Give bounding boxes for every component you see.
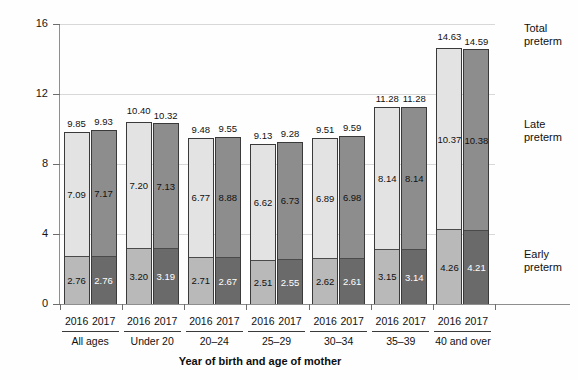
- y-tick-label-12: 12: [22, 87, 48, 99]
- bar: 8.143.15: [374, 107, 400, 304]
- y-axis-title: Percent: [0, 124, 1, 169]
- x-tick-label-year: 2017: [397, 315, 431, 327]
- bar-value-early-preterm: 3.15: [375, 272, 399, 282]
- group-underline: [124, 331, 181, 332]
- bar-segment-late-preterm: 8.14: [375, 108, 399, 250]
- bar: 8.882.67: [215, 137, 241, 304]
- bar-segment-late-preterm: 7.09: [65, 133, 89, 257]
- bar: 6.892.62: [312, 138, 338, 304]
- legend-early-preterm: Early preterm: [524, 248, 578, 274]
- bar-segment-early-preterm: 2.55: [278, 259, 302, 304]
- bar-segment-late-preterm: 8.88: [216, 138, 240, 258]
- bar-value-late-preterm: 7.17: [92, 189, 116, 199]
- y-tick-label-8: 8: [22, 157, 48, 169]
- x-axis-tick: [309, 304, 310, 310]
- bar-value-total-preterm: 9.59: [332, 123, 372, 133]
- bar-value-total-preterm: 9.93: [84, 117, 124, 127]
- bar-segment-early-preterm: 2.51: [251, 260, 275, 304]
- bar-segment-late-preterm: 6.98: [340, 137, 364, 259]
- bar-segment-early-preterm: 2.76: [92, 256, 116, 304]
- group-underline: [186, 331, 243, 332]
- bar: 7.133.19: [153, 123, 179, 304]
- x-tick-label-year: 2017: [87, 315, 121, 327]
- bar-value-late-preterm: 8.14: [375, 174, 399, 184]
- group-underline: [310, 331, 367, 332]
- bar-value-early-preterm: 2.71: [189, 276, 213, 286]
- legend-early-preterm-line2: preterm: [524, 261, 578, 274]
- bar-segment-late-preterm: 7.13: [154, 124, 178, 249]
- x-axis-tick: [371, 304, 372, 310]
- bar-segment-late-preterm: 10.37: [437, 49, 461, 230]
- bar-value-early-preterm: 3.19: [154, 272, 178, 282]
- bar-value-late-preterm: 6.62: [251, 198, 275, 208]
- y-tick-label-16: 16: [22, 17, 48, 29]
- bar-segment-early-preterm: 3.19: [154, 248, 178, 304]
- bar-value-late-preterm: 8.88: [216, 193, 240, 203]
- bar-segment-early-preterm: 2.71: [189, 257, 213, 304]
- x-axis-tick: [122, 304, 123, 310]
- legend-total-preterm-line2: preterm: [524, 35, 578, 48]
- legend-total-preterm-line1: Total: [524, 22, 578, 35]
- bar-segment-late-preterm: 6.77: [189, 139, 213, 257]
- bar: 10.384.21: [463, 49, 489, 304]
- bar: 7.203.20: [126, 122, 152, 304]
- bar-segment-early-preterm: 2.67: [216, 257, 240, 304]
- bar: 6.982.61: [339, 136, 365, 304]
- y-tick-4: [53, 234, 60, 235]
- group-underline: [434, 331, 491, 332]
- bar-segment-early-preterm: 3.14: [402, 249, 426, 304]
- group-underline: [62, 331, 119, 332]
- bar-value-early-preterm: 2.76: [65, 276, 89, 286]
- bar-segment-early-preterm: 4.21: [464, 230, 488, 304]
- x-axis-tick: [60, 304, 61, 310]
- y-tick-12: [53, 94, 60, 95]
- bar-segment-late-preterm: 7.20: [127, 123, 151, 249]
- group-underline: [248, 331, 305, 332]
- bar: 7.172.76: [91, 130, 117, 304]
- bar-segment-late-preterm: 8.14: [402, 108, 426, 250]
- x-tick-label-year: 2017: [273, 315, 307, 327]
- bar-value-late-preterm: 6.73: [278, 196, 302, 206]
- bar-value-late-preterm: 6.98: [340, 193, 364, 203]
- group-underline: [372, 331, 429, 332]
- bar: 8.143.14: [401, 107, 427, 304]
- legend-late-preterm: Late preterm: [524, 118, 578, 144]
- bar-segment-late-preterm: 7.17: [92, 131, 116, 256]
- x-axis-tick: [184, 304, 185, 310]
- bar-value-total-preterm: 11.28: [394, 94, 434, 104]
- bar-value-total-preterm: 9.28: [270, 129, 310, 139]
- bar: 10.374.26: [436, 48, 462, 304]
- y-tick-label-4: 4: [22, 227, 48, 239]
- legend-early-preterm-line1: Early: [524, 248, 578, 261]
- legend-late-preterm-line1: Late: [524, 118, 578, 131]
- bar-value-early-preterm: 2.67: [216, 277, 240, 287]
- bar-value-late-preterm: 10.38: [464, 136, 488, 146]
- bar-value-late-preterm: 7.13: [154, 182, 178, 192]
- bar-value-late-preterm: 6.89: [313, 194, 337, 204]
- legend-total-preterm: Total preterm: [524, 22, 578, 48]
- bar-segment-early-preterm: 4.26: [437, 229, 461, 304]
- bar-value-early-preterm: 2.76: [92, 276, 116, 286]
- bar: 6.772.71: [188, 138, 214, 304]
- bar-segment-early-preterm: 2.62: [313, 258, 337, 304]
- bar-value-early-preterm: 2.55: [278, 278, 302, 288]
- bar-segment-early-preterm: 3.20: [127, 248, 151, 304]
- bar-value-total-preterm: 10.32: [146, 111, 186, 121]
- plot-area: 7.092.769.857.172.769.937.203.2010.407.1…: [60, 24, 495, 304]
- legend-late-preterm-line2: preterm: [524, 131, 578, 144]
- bar-value-late-preterm: 8.14: [402, 174, 426, 184]
- x-axis-title: Year of birth and age of mother: [0, 355, 520, 367]
- bar-value-early-preterm: 3.14: [402, 273, 426, 283]
- bar-value-early-preterm: 2.51: [251, 278, 275, 288]
- x-group-label: 40 and over: [416, 335, 509, 347]
- bar-segment-late-preterm: 10.38: [464, 50, 488, 232]
- bar-value-late-preterm: 10.37: [437, 135, 461, 145]
- bar-value-early-preterm: 2.61: [340, 277, 364, 287]
- bar-value-early-preterm: 4.26: [437, 263, 461, 273]
- y-tick-8: [53, 164, 60, 165]
- bar-value-late-preterm: 7.09: [65, 190, 89, 200]
- bar-segment-late-preterm: 6.89: [313, 139, 337, 260]
- bar-segment-early-preterm: 2.76: [65, 256, 89, 304]
- bar-segment-late-preterm: 6.73: [278, 143, 302, 261]
- bar-value-late-preterm: 7.20: [127, 181, 151, 191]
